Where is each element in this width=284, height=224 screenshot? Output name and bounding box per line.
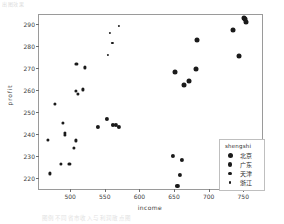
x-tick-label: 750 <box>237 193 248 200</box>
legend-label: 广东 <box>240 160 252 169</box>
legend-label: 天津 <box>240 169 252 178</box>
legend-entry[interactable]: 浙江 <box>224 178 261 187</box>
data-point <box>53 103 56 106</box>
data-point <box>62 121 65 124</box>
data-point <box>72 147 75 150</box>
data-point <box>230 27 235 32</box>
data-point <box>182 82 187 87</box>
data-point <box>180 158 184 162</box>
data-point <box>194 66 199 71</box>
y-tick <box>36 112 39 113</box>
data-point <box>177 172 181 176</box>
legend-marker-icon <box>224 153 236 158</box>
x-tick-label: 500 <box>64 193 75 200</box>
data-point <box>109 32 111 34</box>
y-tick-label: 220 <box>24 174 35 181</box>
y-tick-label: 240 <box>24 130 35 137</box>
y-tick <box>36 68 39 69</box>
x-tick <box>70 189 71 192</box>
data-point <box>105 117 109 121</box>
legend-entries: 北京广东天津浙江 <box>224 151 261 187</box>
legend-label: 北京 <box>240 151 252 160</box>
legend-entry[interactable]: 广东 <box>224 160 261 169</box>
data-point <box>60 163 63 166</box>
data-point <box>96 124 100 128</box>
x-axis-label: income <box>138 204 162 211</box>
legend-marker-icon <box>224 162 236 166</box>
legend-title: shengshi <box>225 143 261 149</box>
legend-label: 浙江 <box>240 178 252 187</box>
data-point <box>118 25 120 27</box>
top-left-artifact-text: 出图效果 <box>2 0 24 7</box>
data-point <box>83 66 86 69</box>
legend[interactable]: shengshi 北京广东天津浙江 <box>219 139 265 191</box>
data-point <box>194 38 199 43</box>
bottom-caption-artifact: 图例不同省市收入与利润散点图 <box>42 214 132 222</box>
data-point <box>171 154 175 158</box>
x-tick-label: 650 <box>168 193 179 200</box>
y-tick <box>36 24 39 25</box>
data-point <box>187 79 192 84</box>
x-tick <box>105 189 106 192</box>
y-tick <box>36 46 39 47</box>
data-point <box>74 139 77 142</box>
x-tick <box>174 189 175 192</box>
data-point <box>75 62 78 65</box>
data-point <box>172 70 177 75</box>
scatter-figure: 出图效果 220230240250260270280290 5005506006… <box>0 0 284 224</box>
data-point <box>46 138 49 141</box>
y-tick <box>36 156 39 157</box>
data-point <box>117 125 121 129</box>
data-point <box>111 42 113 44</box>
data-point <box>76 93 79 96</box>
data-point <box>237 53 242 58</box>
data-point <box>82 88 85 91</box>
x-tick-label: 550 <box>99 193 110 200</box>
data-point <box>48 172 51 175</box>
data-point <box>244 19 249 24</box>
legend-marker-icon <box>224 181 236 183</box>
y-tick <box>36 178 39 179</box>
data-point <box>68 162 71 165</box>
y-tick-label: 280 <box>24 42 35 49</box>
data-point <box>64 133 67 136</box>
legend-entry[interactable]: 北京 <box>224 151 261 160</box>
data-point <box>175 184 179 188</box>
x-tick <box>209 189 210 192</box>
y-axis-label: profit <box>6 85 13 106</box>
y-tick <box>36 90 39 91</box>
y-tick-label: 260 <box>24 86 35 93</box>
x-tick-label: 600 <box>134 193 145 200</box>
y-tick-label: 230 <box>24 152 35 159</box>
legend-marker-icon <box>224 172 236 175</box>
y-tick-label: 250 <box>24 108 35 115</box>
y-tick-label: 270 <box>24 64 35 71</box>
x-tick <box>139 189 140 192</box>
x-tick-label: 700 <box>203 193 214 200</box>
y-tick <box>36 134 39 135</box>
y-tick-label: 290 <box>24 20 35 27</box>
data-point <box>106 54 108 56</box>
legend-entry[interactable]: 天津 <box>224 169 261 178</box>
